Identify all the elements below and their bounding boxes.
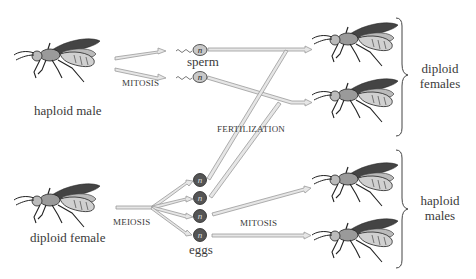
meiosis-stem [116, 206, 152, 209]
offspring-female-wasp-2 [312, 79, 398, 122]
label-haploid-males-line1: haploid [412, 193, 468, 208]
haploid-male-wasp [14, 39, 100, 82]
label-diploid-females: diploid females [412, 61, 468, 91]
sperm-tail-1 [176, 50, 192, 53]
egg-ploidy-1: n [198, 175, 203, 185]
label-diploid-females-line1: diploid [412, 61, 468, 76]
offspring-female-wasp-1 [312, 23, 398, 66]
label-diploid-females-line2: females [412, 76, 468, 91]
label-sperm: sperm [187, 54, 219, 70]
fertilization-arrow-1 [208, 46, 312, 53]
label-male-mitosis: MITOSIS [122, 78, 159, 88]
egg-ploidy-4: n [198, 230, 203, 240]
label-egg-mitosis: MITOSIS [240, 218, 277, 228]
label-meiosis: MEIOSIS [113, 217, 150, 227]
diploid-female-wasp [14, 184, 100, 227]
fertilization-arrow-2 [207, 76, 312, 106]
brace-diploid-females [396, 18, 408, 136]
sperm-tail-2 [176, 77, 192, 80]
egg-mitosis-arrow-2 [212, 232, 311, 239]
egg-to-female-arrow-1 [207, 50, 288, 180]
egg-ploidy-2: n [198, 193, 203, 203]
offspring-male-wasp-2 [312, 219, 398, 262]
egg-mitosis-arrow-1 [212, 186, 311, 216]
offspring-male-wasp-1 [312, 163, 398, 206]
mitosis-arrow-sperm-1 [115, 48, 166, 60]
sperm-ploidy-2: n [198, 72, 203, 82]
label-haploid-males: haploid males [412, 193, 468, 223]
label-eggs: eggs [189, 242, 213, 258]
label-fertilization: FERTILIZATION [217, 124, 285, 134]
label-haploid-males-line2: males [412, 208, 468, 223]
label-diploid-female: diploid female [30, 230, 105, 246]
brace-haploid-males [396, 150, 408, 268]
egg-ploidy-3: n [198, 211, 203, 221]
label-haploid-male: haploid male [34, 103, 102, 119]
